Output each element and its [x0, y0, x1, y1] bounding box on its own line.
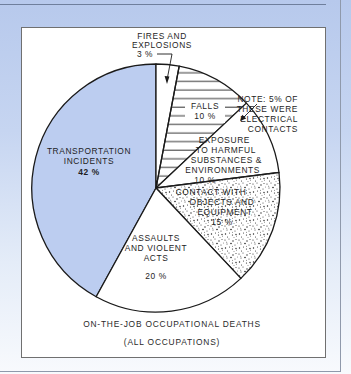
label-exposure-line4: ENVIRONMENTS: [185, 165, 260, 175]
pie-chart: FIRES AND EXPLOSIONS 3 % FALLS 10 % NOTE…: [0, 0, 351, 374]
label-fires-pct: 3 %: [137, 49, 153, 59]
label-contact-line3: EQUIPMENT: [197, 207, 252, 217]
label-exposure-line1: EXPOSURE: [199, 135, 250, 145]
label-transport-line1: TRANSPORTATION: [47, 146, 131, 156]
chart-subtitle: (ALL OCCUPATIONS): [124, 337, 220, 347]
note-line1: NOTE: 5% OF: [237, 94, 298, 104]
chart-title: ON-THE-JOB OCCUPATIONAL DEATHS: [83, 319, 261, 329]
label-assaults-line2: AND VIOLENT: [125, 243, 187, 253]
note-line2: THESE WERE: [237, 104, 298, 114]
label-assaults-pct: 20 %: [145, 271, 167, 281]
note-line3: ELECTRICAL: [240, 114, 298, 124]
label-contact-pct: 15 %: [211, 217, 233, 227]
label-transport-line2: INCIDENTS: [64, 156, 115, 166]
label-falls-pct: 10 %: [194, 111, 216, 121]
label-exposure-pct: 10 %: [194, 175, 216, 185]
label-assaults-line3: ACTS: [144, 253, 169, 263]
label-contact-line2: OBJECTS AND: [190, 197, 255, 207]
label-assaults-line1: ASSAULTS: [132, 233, 180, 243]
label-exposure-line2: TO HARMFUL: [196, 145, 256, 155]
label-exposure-line3: SUBSTANCES &: [191, 155, 262, 165]
label-contact-line1: CONTACT WITH: [176, 187, 247, 197]
note-line4: CONTACTS: [248, 124, 298, 134]
label-falls-line1: FALLS: [191, 101, 219, 111]
label-transport-pct: 42 %: [78, 167, 100, 177]
